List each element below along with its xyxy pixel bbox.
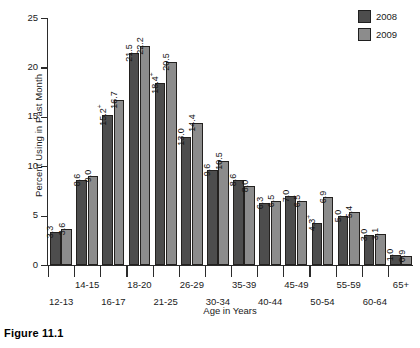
bar-value-label: 13.0 (177, 128, 186, 146)
legend-item: 2009 (358, 28, 397, 41)
chart-legend: 20082009 (358, 10, 397, 46)
x-tick (179, 266, 180, 277)
bars-layer: 3.33.68.69.015.2+16.721.522.218.4+20.513… (48, 18, 413, 265)
bar: 22.2 (140, 46, 151, 265)
x-tick (336, 266, 337, 277)
bar-value-label: 21.5 (125, 44, 134, 62)
x-tick (257, 266, 258, 277)
bar: 13.0 (181, 137, 192, 265)
figure-caption: Figure 11.1 (4, 327, 64, 339)
bar-value-label: 9.0 (84, 170, 93, 183)
x-axis-group-label: 14-15 (75, 279, 99, 290)
bar-value-label: 6.5 (267, 195, 276, 208)
bar: 15.2+ (102, 115, 113, 265)
x-axis-title: Age in Years (47, 305, 413, 316)
bar: 6.3 (259, 203, 270, 265)
plot-area: 0510152025 3.33.68.69.015.2+16.721.522.2… (47, 18, 413, 266)
x-axis-line (47, 265, 413, 266)
y-tick-label: 25 (27, 12, 38, 23)
x-tick (74, 266, 75, 277)
bar-value-label: 3.6 (58, 223, 67, 236)
x-tick (48, 266, 49, 277)
y-tick-label: 15 (27, 110, 38, 121)
x-tick (153, 266, 154, 277)
bar-value-label: 6.5 (293, 195, 302, 208)
x-tick (283, 266, 284, 277)
y-tick-label: 20 (27, 61, 38, 72)
bar-value-label: 5.0 (334, 209, 343, 222)
bar-value-label: 3.1 (371, 228, 380, 241)
bar-value-label: 20.5 (162, 54, 171, 72)
y-tick: 10 (41, 166, 47, 167)
x-tick (388, 266, 389, 277)
x-axis-group-label: 26-29 (180, 279, 204, 290)
bar: 9.6 (207, 170, 218, 265)
bar: 5.0 (338, 216, 349, 265)
bar-value-label: 15.2+ (99, 104, 108, 125)
y-tick: 25 (41, 18, 47, 19)
bar-value-label: 3.3 (46, 226, 55, 239)
bar: 18.4+ (155, 83, 166, 265)
bar-value-label: 8.6 (73, 174, 82, 187)
x-axis-group-label: 45-49 (284, 279, 308, 290)
y-tick: 15 (41, 117, 47, 118)
y-tick: 5 (41, 216, 47, 217)
x-tick (100, 266, 101, 277)
bar: 3.3 (50, 232, 61, 265)
bar: 21.5 (129, 53, 140, 265)
bar: 16.7 (114, 100, 125, 265)
legend-label: 2008 (376, 11, 397, 22)
legend-item: 2008 (358, 10, 397, 23)
legend-color-swatch (358, 10, 371, 23)
bar: 4.3+ (312, 223, 323, 265)
bar: 8.0 (244, 186, 255, 265)
bar: 6.9 (323, 197, 334, 265)
bar-value-label: 3.0 (360, 229, 369, 242)
figure-container: Percent Using in Past Month 0510152025 3… (0, 0, 420, 348)
bar-value-label: 6.3 (256, 197, 265, 210)
bar: 20.5 (166, 62, 177, 265)
bar-value-label: 10.5 (215, 153, 224, 171)
x-axis-group-label: 18-20 (127, 279, 151, 290)
bar-value-label: 16.7 (110, 91, 119, 109)
bar-value-label: 18.4+ (151, 73, 160, 94)
bar-value-label: 8.0 (241, 180, 250, 193)
x-tick (231, 266, 232, 277)
bar-value-label: 9.6 (203, 164, 212, 177)
legend-label: 2009 (376, 29, 397, 40)
bar: 8.6 (233, 180, 244, 265)
y-tick: 0 (41, 265, 47, 266)
bar: 14.4 (192, 123, 203, 265)
legend-color-swatch (358, 28, 371, 41)
bar: 6.5 (271, 201, 282, 265)
x-axis-group-label: 35-39 (232, 279, 256, 290)
x-tick (362, 266, 363, 277)
x-tick (126, 266, 127, 277)
bar-value-label: 5.4 (345, 205, 354, 218)
y-tick-label: 5 (33, 209, 38, 220)
bar-value-label: 14.4 (188, 114, 197, 132)
bar-value-label: 4.3+ (308, 214, 317, 230)
bar: 8.6 (76, 180, 87, 265)
y-tick-label: 0 (33, 259, 38, 270)
x-tick (309, 266, 310, 277)
y-tick: 20 (41, 67, 47, 68)
bar: 3.6 (61, 229, 72, 265)
x-tick (205, 266, 206, 277)
bar: 9.0 (88, 176, 99, 265)
x-axis-group-label: 55-59 (336, 279, 360, 290)
bar-value-label: 22.2 (136, 37, 145, 55)
bar-value-label: 8.6 (229, 174, 238, 187)
bar-value-label: 0.9 (398, 250, 407, 263)
bar: 0.9 (401, 256, 412, 265)
x-axis-group-label: 65+ (393, 279, 409, 290)
bar: 6.5 (297, 201, 308, 265)
bar-value-label: 7.0 (282, 190, 291, 203)
bar-value-label: 6.9 (319, 191, 328, 204)
bar: 5.4 (349, 212, 360, 265)
bar-value-label: 1.0 (386, 249, 395, 262)
y-tick-label: 10 (27, 160, 38, 171)
